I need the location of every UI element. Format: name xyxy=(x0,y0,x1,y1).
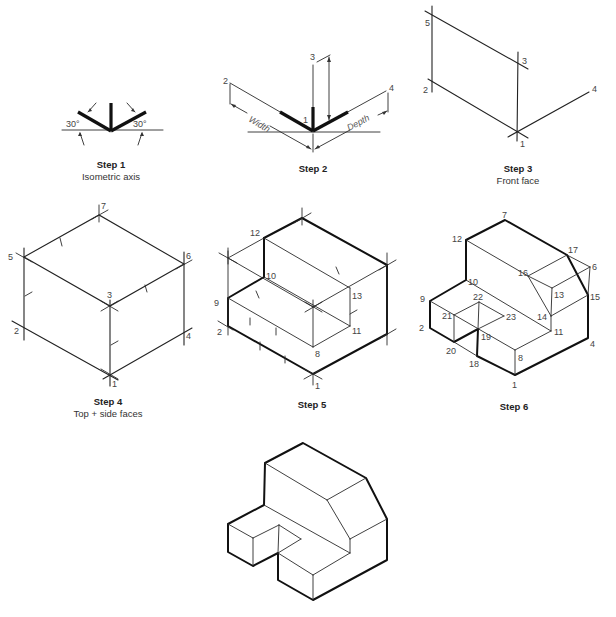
front-top-construction xyxy=(228,258,313,307)
edge-22-23 xyxy=(479,302,504,316)
arrowhead-icon xyxy=(382,111,387,115)
point-label-3: 3 xyxy=(107,290,112,300)
point-label-7: 7 xyxy=(101,201,106,211)
bottom-left-edge xyxy=(428,79,528,138)
edge-8-14 xyxy=(313,553,350,575)
point-label-10: 10 xyxy=(468,277,478,287)
step4-subtitle: Top + side faces xyxy=(74,408,143,419)
step3-subtitle: Front face xyxy=(497,175,540,186)
step1-panel: 30° 30° Step 1 Isometric axis xyxy=(62,103,163,182)
arrowhead-icon xyxy=(306,145,311,149)
edge-8-11 xyxy=(515,331,551,350)
edge-16-14 xyxy=(327,500,350,539)
point-label-22: 22 xyxy=(473,292,483,302)
measure-tick xyxy=(25,292,32,296)
point-label-4: 4 xyxy=(389,83,394,93)
edge-13-15 xyxy=(350,519,387,539)
point-label-5: 5 xyxy=(425,18,430,28)
step5-panel: 12 10 9 13 11 2 8 1 Step 5 xyxy=(214,208,396,410)
point-label-3: 3 xyxy=(310,52,315,62)
edge-19-8 xyxy=(278,553,313,575)
point-label-2: 2 xyxy=(423,85,428,95)
edge-16-17 xyxy=(327,478,366,500)
point-label-6: 6 xyxy=(592,262,597,272)
point-label-14: 14 xyxy=(537,312,547,322)
edge-10-14 xyxy=(264,505,350,553)
edge-6-15 xyxy=(588,267,590,295)
point-label-12: 12 xyxy=(250,228,260,238)
step4-panel: 7 5 6 3 2 4 1 Step 4 Top + side faces xyxy=(8,201,192,419)
point-label-1: 1 xyxy=(520,139,525,149)
point-label-1: 1 xyxy=(112,379,117,389)
right-receding-edge xyxy=(508,92,589,137)
angle-label-right: 30° xyxy=(133,119,147,129)
step-front-edge xyxy=(228,298,313,347)
point-label-18: 18 xyxy=(469,359,479,369)
edge-13-14 xyxy=(551,288,552,316)
point-label-7: 7 xyxy=(502,210,507,220)
point-label-1: 1 xyxy=(303,115,308,125)
point-label-21: 21 xyxy=(442,311,452,321)
point-label-6: 6 xyxy=(186,251,191,261)
point-label-12: 12 xyxy=(452,234,462,244)
point-label-9: 9 xyxy=(214,298,219,308)
point-label-11: 11 xyxy=(352,326,361,336)
outline-body xyxy=(228,238,387,374)
point-label-23: 23 xyxy=(506,312,516,322)
point-label-4: 4 xyxy=(592,84,597,94)
point-label-8: 8 xyxy=(518,353,523,363)
arrowhead-icon xyxy=(78,132,82,136)
left-iso-axis xyxy=(280,112,313,131)
step-mid-edge xyxy=(264,277,350,326)
bottom-left-edge xyxy=(12,321,118,380)
step2-panel: Width Depth 1 2 3 4 Step 2 xyxy=(223,52,394,174)
point-label-5: 5 xyxy=(8,252,13,262)
arrowhead-icon xyxy=(140,132,144,136)
point-label-2: 2 xyxy=(14,326,19,336)
final-object-panel xyxy=(228,443,387,600)
point-label-16: 16 xyxy=(518,268,528,278)
point-label-13: 13 xyxy=(352,291,362,301)
edge-23-19 xyxy=(278,539,301,553)
step-top-edge xyxy=(264,238,350,288)
top-front-edges xyxy=(24,257,184,306)
arrowhead-icon xyxy=(327,115,331,120)
point-label-20: 20 xyxy=(446,346,456,356)
step4-title: Step 4 xyxy=(94,396,123,407)
edge-9-21 xyxy=(228,524,253,538)
step5-title: Step 5 xyxy=(298,399,327,410)
arrowhead-icon xyxy=(327,57,331,62)
edge-16-17 xyxy=(528,255,567,276)
bottom-right-edge xyxy=(103,328,192,379)
measure-tick xyxy=(60,238,62,246)
step2-title: Step 2 xyxy=(299,163,328,174)
measure-tick xyxy=(336,267,339,274)
angle-label-left: 30° xyxy=(66,119,80,129)
point-label-19: 19 xyxy=(481,332,491,342)
left-iso-axis xyxy=(78,112,111,131)
measure-tick xyxy=(350,310,357,314)
point-label-11: 11 xyxy=(554,327,563,337)
point-label-17: 17 xyxy=(568,245,578,255)
measure-tick xyxy=(111,341,118,345)
left-top-construction xyxy=(228,238,264,258)
step-bottom-right xyxy=(313,326,350,347)
width-dim-line-b xyxy=(270,126,311,149)
edge-21-22 xyxy=(253,525,279,538)
point-label-10: 10 xyxy=(266,271,276,281)
top-back-edges xyxy=(24,215,184,264)
point-label-13: 13 xyxy=(554,290,564,300)
edge-22-19 xyxy=(478,302,479,329)
width-label: Width xyxy=(247,114,272,134)
edge-22-19 xyxy=(278,525,279,553)
point-label-1: 1 xyxy=(512,380,517,390)
edge-13-6 xyxy=(552,267,590,288)
step6-panel: 7 12 17 6 16 10 13 15 9 22 23 21 14 11 1… xyxy=(419,210,600,412)
step3-title: Step 3 xyxy=(504,163,533,174)
point-label-2: 2 xyxy=(223,76,228,86)
object-outline xyxy=(228,443,387,600)
isometric-steps-figure: 30° 30° Step 1 Isometric axis Width Dept… xyxy=(0,0,616,617)
measure-tick xyxy=(256,291,259,298)
step1-subtitle: Isometric axis xyxy=(82,171,140,182)
arrowhead-icon xyxy=(315,145,320,149)
